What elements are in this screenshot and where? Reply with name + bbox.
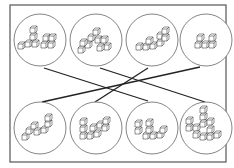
line-t4-b1	[42, 67, 200, 102]
circle-t2[interactable]	[70, 14, 122, 66]
circle-b4[interactable]	[180, 102, 232, 154]
connection-lines	[42, 67, 205, 102]
line-t1-b3	[44, 68, 148, 101]
circle-t3[interactable]	[126, 14, 178, 66]
circle-b2[interactable]	[70, 102, 122, 154]
circle-b3[interactable]	[126, 102, 178, 154]
matching-diagram	[0, 0, 234, 168]
circle-t1[interactable]	[14, 14, 66, 66]
circle-b1[interactable]	[14, 102, 66, 154]
circle-t4[interactable]	[180, 14, 232, 66]
